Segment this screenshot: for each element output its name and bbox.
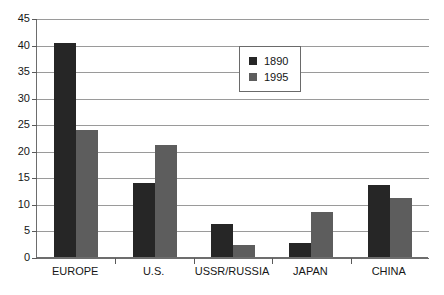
y-axis-tick-label: 15 — [4, 172, 30, 183]
y-axis-tick-label: 20 — [4, 146, 30, 157]
y-axis-tick-label: 5 — [4, 225, 30, 236]
legend-label-1995: 1995 — [264, 72, 288, 83]
y-axis-tick — [32, 19, 37, 20]
gridline — [37, 72, 429, 73]
y-axis-tick — [32, 258, 37, 259]
bar-ussr-russia-1890 — [211, 224, 233, 257]
legend: 18901995 — [239, 46, 301, 92]
bar-china-1890 — [368, 185, 390, 257]
y-axis: 051015202530354045 — [0, 19, 30, 258]
legend-entry-1995: 1995 — [249, 69, 288, 85]
y-axis-tick — [32, 125, 37, 126]
gridline — [37, 99, 429, 100]
y-axis-tick-label: 40 — [4, 40, 30, 51]
x-axis-label-ussr-russia: USSR/RUSSIA — [195, 265, 270, 277]
y-axis-tick — [32, 99, 37, 100]
x-axis-label-japan: JAPAN — [293, 265, 328, 277]
y-axis-tick-label: 30 — [4, 93, 30, 104]
y-axis-tick-label: 10 — [4, 199, 30, 210]
x-axis-label-europe: EUROPE — [52, 265, 98, 277]
y-axis-tick-label: 0 — [4, 252, 30, 263]
bar-japan-1995 — [311, 212, 333, 257]
bar-u-s--1890 — [133, 183, 155, 257]
x-axis-label-china: CHINA — [372, 265, 406, 277]
x-axis-tick — [194, 258, 195, 264]
gridline — [37, 46, 429, 47]
gridline — [37, 19, 429, 20]
y-axis-tick — [32, 46, 37, 47]
legend-swatch-1890 — [249, 57, 257, 65]
legend-label-1890: 1890 — [264, 56, 288, 67]
y-axis-tick — [32, 152, 37, 153]
y-axis-tick-label: 25 — [4, 119, 30, 130]
gridline — [37, 125, 429, 126]
x-axis-labels: EUROPEU.S.USSR/RUSSIAJAPANCHINA — [36, 265, 428, 285]
x-axis-label-u-s-: U.S. — [143, 265, 164, 277]
gridline — [37, 258, 429, 259]
bar-ussr-russia-1995 — [233, 245, 255, 257]
bar-chart: 051015202530354045 18901995 EUROPEU.S.US… — [0, 0, 444, 295]
bar-europe-1995 — [76, 130, 98, 257]
y-axis-tick-label: 35 — [4, 66, 30, 77]
y-axis-tick-label: 45 — [4, 13, 30, 24]
bar-u-s--1995 — [155, 145, 177, 257]
bar-japan-1890 — [289, 243, 311, 257]
x-axis-tick — [115, 258, 116, 264]
x-axis-tick — [351, 258, 352, 264]
legend-entry-1890: 1890 — [249, 53, 288, 69]
y-axis-tick — [32, 178, 37, 179]
y-axis-tick — [32, 205, 37, 206]
bar-china-1995 — [390, 198, 412, 257]
legend-swatch-1995 — [249, 73, 257, 81]
y-axis-tick — [32, 231, 37, 232]
y-axis-tick — [32, 72, 37, 73]
plot-area: 18901995 — [36, 19, 428, 258]
bar-europe-1890 — [54, 43, 76, 257]
x-axis-tick — [272, 258, 273, 264]
